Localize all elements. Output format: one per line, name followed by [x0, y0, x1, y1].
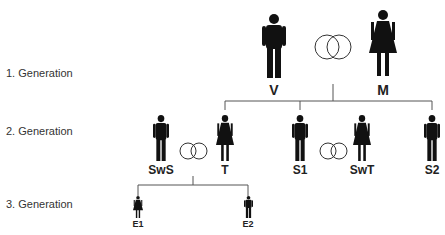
person-label-e2: E2 [242, 219, 253, 229]
person-label-t: T [221, 163, 228, 177]
person-label-m: M [377, 82, 389, 98]
male-icon [292, 115, 308, 161]
person-label-v: V [269, 82, 278, 98]
person-label-s1: S1 [293, 163, 308, 177]
female-icon [133, 196, 143, 218]
male-icon [153, 115, 169, 161]
generation-3-label: 3. Generation [6, 198, 73, 210]
generation-1-label: 1. Generation [6, 67, 73, 79]
male-icon [424, 115, 440, 161]
female-icon [369, 10, 397, 76]
person-label-e1: E1 [132, 219, 143, 229]
generation-2-label: 2. Generation [6, 125, 73, 137]
female-icon [353, 115, 371, 161]
male-icon [262, 14, 286, 78]
person-label-swt: SwT [350, 163, 375, 177]
person-label-sws: SwS [148, 163, 173, 177]
female-icon [216, 115, 234, 161]
male-icon [244, 196, 253, 218]
person-label-s2: S2 [425, 163, 440, 177]
